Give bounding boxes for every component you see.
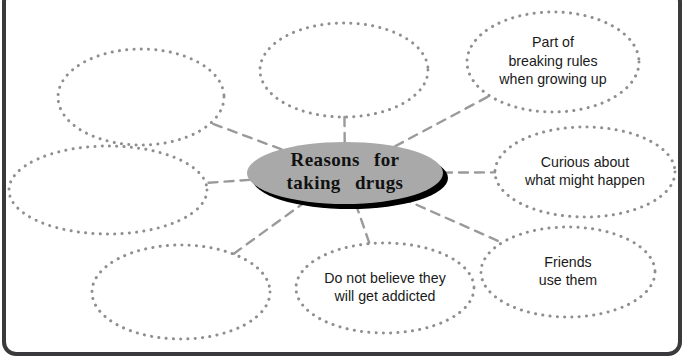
branch-label-line: use them [539,272,597,288]
branch-top-left-empty[interactable] [58,49,224,145]
connector-line [233,201,305,254]
connector-line [211,123,282,149]
center-node-label-line2: taking drugs [287,172,404,193]
connector-line [402,198,502,242]
branch-ellipse[interactable] [92,245,270,339]
branch-friends-use-them[interactable]: Friendsuse them [481,227,655,317]
branch-label-line: breaking rules [508,53,597,69]
branch-label-line: Curious about [541,154,629,170]
connector-line [206,180,250,183]
branch-left-empty[interactable] [9,146,207,234]
connector-line [356,204,370,244]
branch-label-line: Do not believe they [324,270,446,286]
branch-curious[interactable]: Curious aboutwhat might happen [495,127,675,217]
branch-label-line: what might happen [524,172,645,188]
branch-label-line: Part of [532,34,574,50]
mind-map-svg: Part ofbreaking ruleswhen growing upCuri… [0,0,688,362]
center-node-label-line1: Reasons for [291,149,400,170]
branch-label-line: will get addicted [334,288,436,304]
branch-ellipse[interactable] [9,146,207,234]
diagram-canvas: Part ofbreaking ruleswhen growing upCuri… [0,0,688,362]
branch-top-center-empty[interactable] [260,23,428,117]
branch-bottom-left-empty[interactable] [92,245,270,339]
branch-breaking-rules[interactable]: Part ofbreaking ruleswhen growing up [467,12,639,112]
connector-line [395,96,490,147]
branch-ellipse[interactable] [58,49,224,145]
branch-not-addicted[interactable]: Do not believe theywill get addicted [296,243,474,333]
center-node[interactable]: Reasons for taking drugs [247,142,448,209]
branch-ellipse[interactable] [260,23,428,117]
branch-label-line: when growing up [498,71,606,87]
branch-label-line: Friends [544,254,591,270]
